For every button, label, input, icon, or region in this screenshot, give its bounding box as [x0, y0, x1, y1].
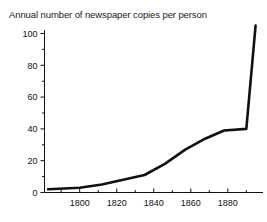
y-tick-label: 0 [32, 188, 37, 198]
y-tick-label: 20 [27, 156, 37, 166]
y-tick-label: 60 [27, 92, 37, 102]
x-tick-label: 1860 [181, 198, 201, 208]
x-axis-ticks [61, 189, 246, 193]
line-chart-plot: 020406080100 18001820184018601880 [0, 0, 267, 222]
y-tick-label: 100 [22, 29, 37, 39]
y-tick-label: 80 [27, 61, 37, 71]
chart-container: Annual number of newspaper copies per pe… [0, 0, 267, 222]
data-series-group [48, 26, 255, 190]
x-axis-tick-labels: 18001820184018601880 [70, 198, 238, 208]
x-tick-label: 1800 [70, 198, 90, 208]
data-line-newspaper-copies-per-person [48, 26, 255, 190]
x-tick-label: 1820 [107, 198, 127, 208]
x-tick-label: 1840 [144, 198, 164, 208]
y-axis-ticks [41, 34, 45, 193]
y-tick-label: 40 [27, 124, 37, 134]
x-tick-label: 1880 [218, 198, 238, 208]
y-axis-tick-labels: 020406080100 [22, 29, 37, 198]
axes [45, 30, 264, 193]
